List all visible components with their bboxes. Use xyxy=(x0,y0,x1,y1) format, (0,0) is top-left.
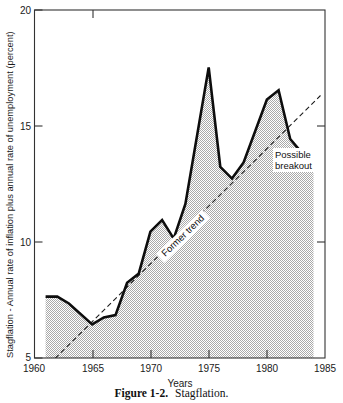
figure-caption-text: Stagflation. xyxy=(175,387,228,399)
possible-breakout-label-line1: Possible xyxy=(275,149,311,160)
possible-breakout-label-line2: breakout xyxy=(275,160,312,171)
xtick-label-1975: 1975 xyxy=(198,363,221,374)
area-fill xyxy=(46,67,314,358)
xtick-label-1985: 1985 xyxy=(314,363,337,374)
figure-caption: Figure 1-2.Stagflation. xyxy=(0,385,343,400)
ytick-label-20: 20 xyxy=(20,5,32,16)
y-axis-title: Stagflation - Annual rate of inflation p… xyxy=(5,31,15,358)
xtick-label-1965: 1965 xyxy=(82,363,105,374)
ytick-label-10: 10 xyxy=(20,237,32,248)
chart-canvas: 20 15 10 5 1960 1965 1970 1975 1980 1985… xyxy=(0,0,343,403)
xtick-label-1980: 1980 xyxy=(256,363,279,374)
figure-caption-number: Figure 1-2. xyxy=(115,387,168,399)
xtick-label-1970: 1970 xyxy=(140,363,163,374)
xtick-label-1960: 1960 xyxy=(23,363,46,374)
ytick-label-15: 15 xyxy=(20,121,32,132)
ytick-label-5: 5 xyxy=(25,352,31,363)
annotation-possible-breakout: Possible breakout xyxy=(273,148,323,172)
figure-stagflation: 20 15 10 5 1960 1965 1970 1975 1980 1985… xyxy=(0,0,343,403)
